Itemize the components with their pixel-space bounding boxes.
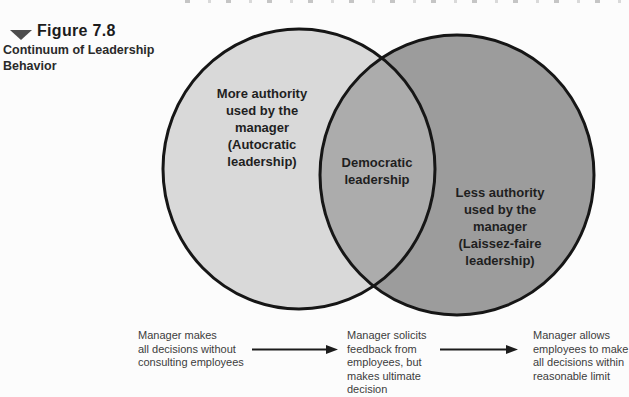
overlap-label: Democratic leadership bbox=[312, 154, 442, 188]
right-circle-label: Less authority used by the manager (Lais… bbox=[425, 184, 575, 269]
continuum-stage-laissez-faire: Manager allows employees to make all dec… bbox=[533, 329, 629, 383]
arrow-democratic-to-laissez-faire bbox=[440, 345, 518, 354]
figure-7-8: Figure 7.8 Continuum of Leadership Behav… bbox=[0, 0, 629, 397]
continuum-stage-autocratic: Manager makes all decisions without cons… bbox=[138, 329, 250, 370]
continuum-stage-democratic: Manager solicits feedback from employees… bbox=[347, 329, 447, 397]
arrow-autocratic-to-democratic bbox=[252, 345, 338, 354]
